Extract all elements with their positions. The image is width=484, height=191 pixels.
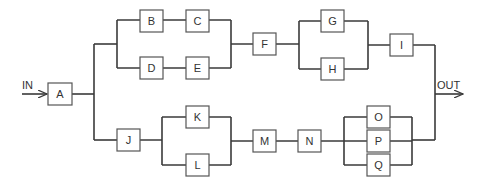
block-q: Q xyxy=(367,154,390,176)
block-o: O xyxy=(367,106,390,128)
svg-text:O: O xyxy=(374,111,383,123)
block-m: M xyxy=(253,130,276,152)
svg-text:Q: Q xyxy=(374,159,383,171)
block-d: D xyxy=(140,57,163,79)
block-c: C xyxy=(186,10,209,32)
svg-text:L: L xyxy=(194,159,200,171)
svg-text:B: B xyxy=(148,15,155,27)
svg-text:P: P xyxy=(375,135,382,147)
svg-text:I: I xyxy=(400,39,403,51)
block-l: L xyxy=(186,154,209,176)
block-j: J xyxy=(117,129,140,151)
block-g: G xyxy=(321,10,344,32)
input-label: IN xyxy=(22,79,33,91)
svg-text:N: N xyxy=(306,135,314,147)
svg-text:D: D xyxy=(148,62,156,74)
svg-text:M: M xyxy=(260,135,269,147)
svg-text:K: K xyxy=(194,111,202,123)
reliability-block-diagram: IN OUT A B C D xyxy=(0,0,484,191)
svg-text:G: G xyxy=(328,15,337,27)
block-i: I xyxy=(390,34,413,56)
output-label: OUT xyxy=(437,79,461,91)
block-e: E xyxy=(186,57,209,79)
svg-text:C: C xyxy=(194,15,202,27)
block-n: N xyxy=(298,130,321,152)
block-f: F xyxy=(253,33,276,55)
block-k: K xyxy=(186,106,209,128)
block-h: H xyxy=(321,58,344,80)
svg-text:J: J xyxy=(126,134,132,146)
svg-text:A: A xyxy=(56,88,64,100)
block-p: P xyxy=(367,130,390,152)
block-a: A xyxy=(48,83,72,105)
svg-text:F: F xyxy=(261,38,268,50)
block-b: B xyxy=(140,10,163,32)
svg-text:H: H xyxy=(329,63,337,75)
svg-text:E: E xyxy=(194,62,201,74)
